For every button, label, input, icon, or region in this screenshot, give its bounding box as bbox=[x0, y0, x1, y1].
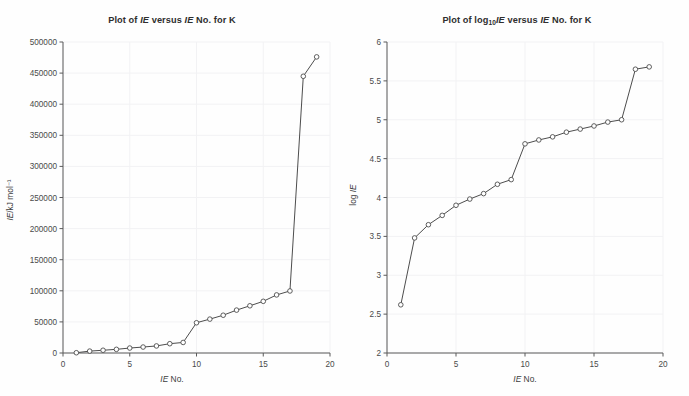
data-point-marker bbox=[619, 117, 624, 122]
x-tick-label: 0 bbox=[385, 360, 390, 369]
x-tick-label: 0 bbox=[61, 360, 66, 369]
data-point-marker bbox=[509, 177, 514, 182]
y-tick-label: 50000 bbox=[34, 318, 57, 327]
tick-labels-log: 22.533.544.555.5605101520 bbox=[370, 38, 668, 369]
y-tick-label: 150000 bbox=[30, 256, 58, 265]
data-point-marker bbox=[412, 236, 417, 241]
gridlines-linear bbox=[63, 42, 330, 353]
data-point-marker bbox=[248, 303, 253, 308]
data-point-marker bbox=[208, 317, 213, 322]
data-point-marker bbox=[168, 341, 173, 346]
data-point-marker bbox=[114, 347, 119, 352]
data-point-marker bbox=[495, 182, 500, 187]
y-tick-label: 4 bbox=[376, 194, 381, 203]
data-point-marker bbox=[141, 345, 146, 350]
data-point-marker bbox=[426, 222, 431, 227]
y-tick-label: 3 bbox=[376, 271, 381, 280]
y-tick-label: 4.5 bbox=[370, 155, 382, 164]
data-point-marker bbox=[633, 67, 638, 72]
data-point-marker bbox=[647, 65, 652, 70]
data-point-marker bbox=[87, 349, 92, 354]
plot-svg-log: 22.533.544.555.5605101520 bbox=[345, 0, 689, 396]
data-point-marker bbox=[101, 348, 106, 353]
data-point-marker bbox=[288, 289, 293, 294]
x-tick-label: 10 bbox=[520, 360, 530, 369]
data-point-marker bbox=[194, 320, 199, 325]
data-point-marker bbox=[537, 138, 542, 143]
x-tick-label: 10 bbox=[192, 360, 202, 369]
data-point-marker bbox=[314, 55, 319, 60]
plot-area-linear: 0500001000001500002000002500003000003500… bbox=[0, 0, 344, 396]
data-point-marker bbox=[564, 130, 569, 135]
data-point-marker bbox=[606, 120, 611, 125]
data-point-marker bbox=[274, 293, 279, 298]
y-tick-label: 100000 bbox=[30, 287, 58, 296]
x-tick-label: 5 bbox=[454, 360, 459, 369]
data-point-marker bbox=[261, 299, 266, 304]
data-point-marker bbox=[154, 344, 159, 349]
y-tick-label: 350000 bbox=[30, 131, 58, 140]
x-tick-label: 5 bbox=[127, 360, 132, 369]
data-point-marker bbox=[234, 308, 239, 313]
y-tick-label: 6 bbox=[376, 38, 381, 47]
y-tick-label: 400000 bbox=[30, 100, 58, 109]
data-point-marker bbox=[399, 303, 404, 308]
data-point-marker bbox=[592, 124, 597, 129]
data-point-marker bbox=[127, 346, 132, 351]
data-point-marker bbox=[578, 127, 583, 132]
x-tick-label: 15 bbox=[589, 360, 599, 369]
y-tick-label: 500000 bbox=[30, 38, 58, 47]
y-tick-label: 450000 bbox=[30, 69, 58, 78]
x-tick-label: 15 bbox=[259, 360, 269, 369]
y-tick-label: 300000 bbox=[30, 162, 58, 171]
tick-labels-linear: 0500001000001500002000002500003000003500… bbox=[30, 38, 335, 369]
figure-container: Plot of IE versus IE No. for K 050000100… bbox=[0, 0, 689, 396]
data-point-marker bbox=[301, 74, 306, 79]
data-point-marker bbox=[181, 340, 186, 345]
y-tick-label: 200000 bbox=[30, 225, 58, 234]
y-tick-label: 2 bbox=[376, 349, 381, 358]
axes-log bbox=[384, 42, 664, 357]
y-tick-label: 0 bbox=[52, 349, 57, 358]
y-tick-label: 3.5 bbox=[370, 232, 382, 241]
y-tick-label: 5.5 bbox=[370, 77, 382, 86]
axes-linear bbox=[60, 42, 331, 357]
y-tick-label: 2.5 bbox=[370, 310, 382, 319]
data-point-marker bbox=[221, 313, 226, 318]
x-tick-label: 20 bbox=[325, 360, 335, 369]
data-point-marker bbox=[481, 191, 486, 196]
chart-panel-ie-log: Plot of log10IE versus IE No. for K 22.5… bbox=[345, 0, 689, 396]
data-point-marker bbox=[523, 142, 528, 147]
data-point-marker bbox=[454, 203, 459, 208]
y-tick-label: 250000 bbox=[30, 194, 58, 203]
y-tick-label: 5 bbox=[376, 116, 381, 125]
data-point-marker bbox=[550, 135, 555, 140]
gridlines-log bbox=[387, 42, 663, 353]
data-point-marker bbox=[468, 197, 473, 202]
data-point-marker bbox=[440, 213, 445, 218]
chart-panel-ie-linear: Plot of IE versus IE No. for K 050000100… bbox=[0, 0, 344, 396]
x-tick-label: 20 bbox=[658, 360, 668, 369]
plot-svg-linear: 0500001000001500002000002500003000003500… bbox=[0, 0, 344, 396]
plot-area-log: 22.533.544.555.5605101520 bbox=[345, 0, 689, 396]
data-point-marker bbox=[74, 350, 79, 355]
